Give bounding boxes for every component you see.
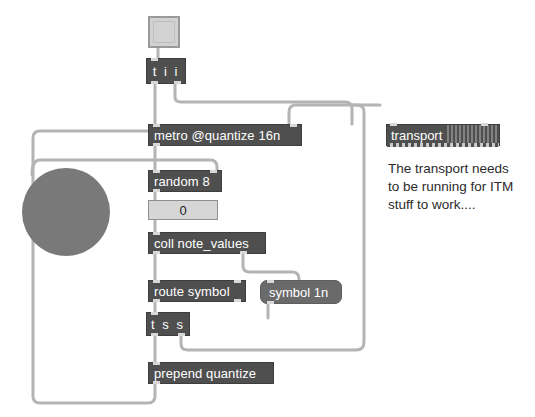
- inlet[interactable]: [153, 170, 160, 173]
- outlet[interactable]: [153, 143, 160, 146]
- object-random-label: random 8: [154, 175, 210, 188]
- object-trigger-bottom-label: t s s: [151, 318, 185, 331]
- transport-hatch: [445, 125, 499, 145]
- inlet[interactable]: [153, 362, 160, 365]
- object-route[interactable]: route symbol: [148, 280, 246, 302]
- message-symbol-1n[interactable]: symbol 1n: [260, 280, 342, 304]
- inlet[interactable]: [153, 232, 160, 235]
- outlet[interactable]: [153, 299, 160, 302]
- cord-into-metro-right-inlet: [289, 105, 380, 124]
- inlet[interactable]: [153, 124, 160, 127]
- object-coll-label: coll note_values: [154, 237, 249, 250]
- object-trigger-bottom[interactable]: t s s: [146, 312, 190, 336]
- object-trigger-top[interactable]: t i i: [146, 58, 186, 84]
- inlet[interactable]: [234, 280, 241, 283]
- object-prepend[interactable]: prepend quantize: [148, 362, 274, 384]
- object-metro-label: metro @quantize 16n: [154, 129, 280, 142]
- inlet[interactable]: [151, 58, 158, 61]
- inlet[interactable]: [267, 280, 274, 283]
- outlet[interactable]: [151, 333, 158, 336]
- object-coll[interactable]: coll note_values: [148, 232, 266, 254]
- outlet[interactable]: [151, 81, 158, 84]
- inlet[interactable]: [153, 280, 160, 283]
- object-transport[interactable]: transport: [386, 124, 500, 146]
- outlet[interactable]: [267, 301, 274, 304]
- max-patcher-canvas[interactable]: t i i metro @quantize 16n transport The …: [0, 0, 535, 417]
- toggle-inner: [153, 21, 175, 43]
- outlet[interactable]: [178, 333, 185, 336]
- message-symbol-1n-label: symbol 1n: [269, 285, 328, 300]
- outlet[interactable]: [174, 81, 181, 84]
- bang-circle[interactable]: [22, 168, 110, 256]
- object-prepend-label: prepend quantize: [154, 367, 256, 380]
- inlet[interactable]: [151, 312, 158, 315]
- number-box[interactable]: 0: [148, 200, 218, 220]
- inlet[interactable]: [210, 170, 217, 173]
- inlet[interactable]: [481, 123, 488, 126]
- comment-transport-note: The transport needs to be running for IT…: [388, 160, 533, 213]
- inlet[interactable]: [290, 124, 297, 127]
- object-metro[interactable]: metro @quantize 16n: [148, 124, 302, 146]
- outlet[interactable]: [153, 189, 160, 192]
- cord-coll-to-symbol-msg: [243, 254, 299, 280]
- object-trigger-top-label: t i i: [153, 65, 180, 78]
- outlet[interactable]: [153, 251, 160, 254]
- outlet[interactable]: [234, 299, 241, 302]
- outlet[interactable]: [240, 251, 247, 254]
- object-random[interactable]: random 8: [148, 170, 222, 192]
- inlet[interactable]: [390, 123, 397, 126]
- toggle-object[interactable]: [148, 16, 180, 48]
- outlet[interactable]: [153, 381, 160, 384]
- number-box-value: 0: [179, 203, 186, 218]
- object-transport-label: transport: [391, 124, 442, 146]
- object-route-label: route symbol: [154, 285, 230, 298]
